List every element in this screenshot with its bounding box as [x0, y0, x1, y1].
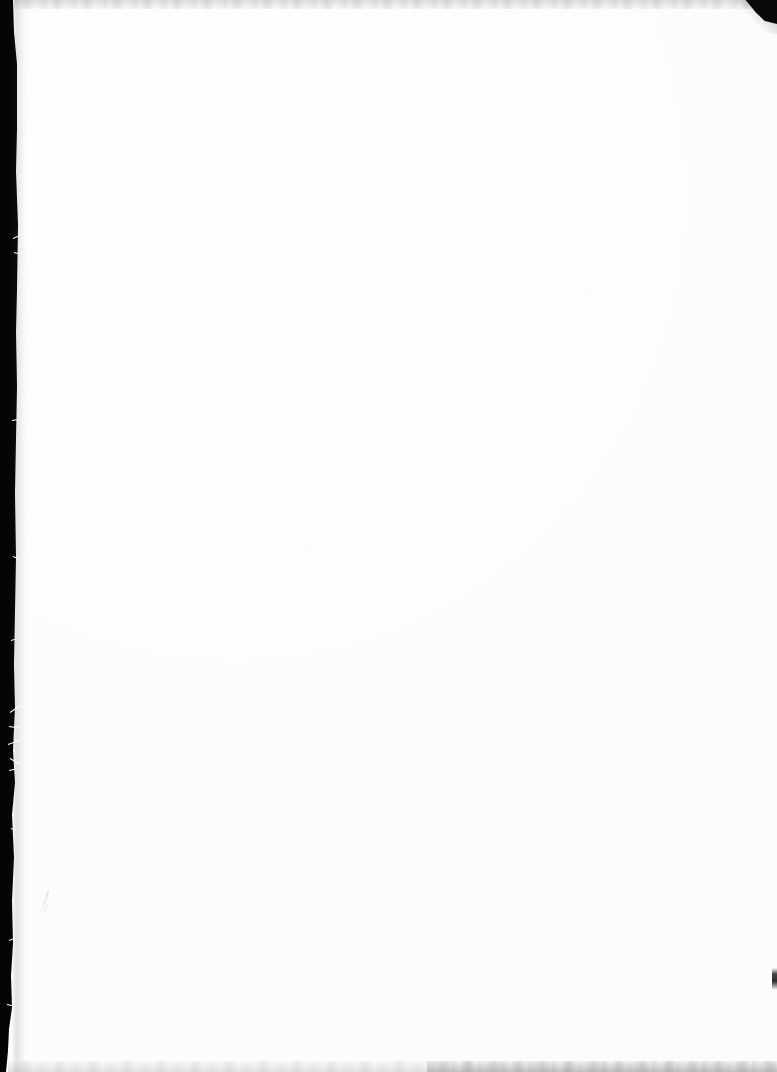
paper-speck — [640, 560, 642, 562]
paper-speck — [436, 290, 438, 292]
paper-speck — [578, 826, 580, 828]
paper-speck — [200, 44, 202, 46]
paper-speck — [222, 430, 224, 432]
paper-speck — [396, 962, 398, 964]
paper-speck — [588, 292, 591, 295]
paper-speck — [304, 545, 306, 547]
paper-speck — [338, 66, 340, 68]
paper-speck — [426, 632, 428, 634]
paper-speck — [264, 1020, 266, 1022]
scan-band-top — [14, 0, 777, 9]
paper-speck — [172, 718, 174, 720]
scanned-page — [0, 0, 777, 1072]
edge-nick — [772, 968, 777, 990]
scan-band-bottom-right — [427, 1061, 777, 1072]
paper-background — [0, 0, 777, 1072]
paper-speck — [90, 36, 92, 38]
paper-speck — [708, 880, 710, 882]
paper-tone — [0, 0, 777, 1072]
